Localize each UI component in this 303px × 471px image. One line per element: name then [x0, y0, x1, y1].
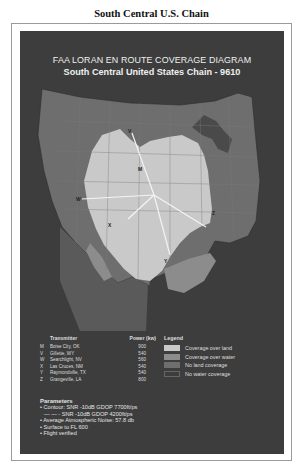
table-row: MBoise City, OK900 [40, 344, 160, 351]
diagram-subtitle: South Central United States Chain - 9610 [27, 66, 278, 77]
legend-swatch [164, 371, 180, 377]
table-row: XLas Cruces, NM540 [40, 364, 160, 371]
parameter-item: • Flight verified [40, 430, 137, 436]
parameter-item: • Contour: SNR -10dB GDOP 7700ft/ps [40, 404, 137, 410]
parameters: Parameters • Contour: SNR -10dB GDOP 770… [40, 398, 137, 436]
legend-swatch [164, 354, 180, 360]
legend-item: Coverage over water [164, 353, 235, 362]
table-row: ZGrangeville, LA800 [40, 377, 160, 384]
transmitter-table: Transmitter Power (kw) MBoise City, OK90… [40, 335, 160, 384]
table-row: VGillette, WY540 [40, 351, 160, 358]
legend-title: Legend [164, 335, 235, 341]
diagram-title: FAA LORAN EN ROUTE COVERAGE DIAGRAM [27, 54, 278, 65]
header-transmitter: Transmitter [50, 335, 126, 341]
page-title: South Central U.S. Chain [0, 8, 303, 19]
parameter-item: • Average Atmospheric Noise: 57.8 db [40, 417, 137, 423]
legend-item: Coverage over land [164, 344, 235, 353]
legend: Legend Coverage over land Coverage over … [164, 335, 235, 378]
legend-item: No water coverage [164, 370, 235, 379]
header-power: Power (kw) [126, 335, 156, 341]
table-header: Transmitter Power (kw) [40, 335, 160, 341]
station-label: Z [212, 210, 215, 216]
table-row: YRaymondville, TX540 [40, 370, 160, 377]
table-row: WSearchlight, NV560 [40, 357, 160, 364]
legend-swatch [164, 362, 180, 368]
station-label: W [76, 196, 81, 202]
legend-item: No land coverage [164, 361, 235, 370]
station-label: M [138, 166, 142, 172]
legend-swatch [164, 345, 180, 351]
coverage-diagram-panel: V M W X Y Z FAA LORAN EN ROUTE COVERAGE … [20, 31, 284, 454]
